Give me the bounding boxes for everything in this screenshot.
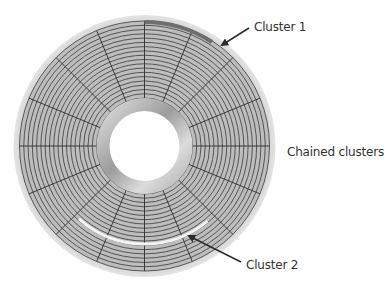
disc-hole	[110, 111, 180, 181]
cluster-1-label: Cluster 1	[254, 20, 306, 34]
chained-clusters-label: Chained clusters	[287, 145, 384, 159]
cluster-2-label: Cluster 2	[246, 258, 298, 272]
cluster-1-arrow	[222, 28, 249, 45]
